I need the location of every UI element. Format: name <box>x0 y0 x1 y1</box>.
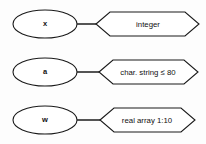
diagram-svg: x integer a char. string ≤ 80 w real arr… <box>0 0 206 144</box>
type-label: integer <box>136 20 160 29</box>
type-label: char. string ≤ 80 <box>120 68 176 77</box>
variable-label: w <box>41 115 48 124</box>
type-label: real array 1:10 <box>122 116 173 125</box>
diagram-canvas: x integer a char. string ≤ 80 w real arr… <box>0 0 206 144</box>
diagram-row: x integer <box>13 10 199 38</box>
diagram-row: w real array 1:10 <box>13 106 195 134</box>
diagram-row: a char. string ≤ 80 <box>13 58 198 86</box>
